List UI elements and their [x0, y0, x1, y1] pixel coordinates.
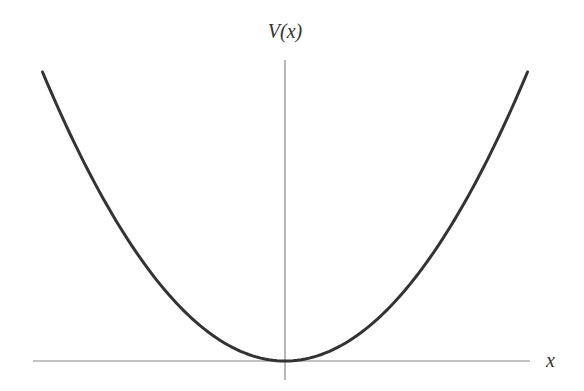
potential-plot: V(x) x: [0, 0, 584, 391]
x-axis-label: x: [545, 349, 555, 371]
y-axis-label: V(x): [268, 20, 303, 43]
